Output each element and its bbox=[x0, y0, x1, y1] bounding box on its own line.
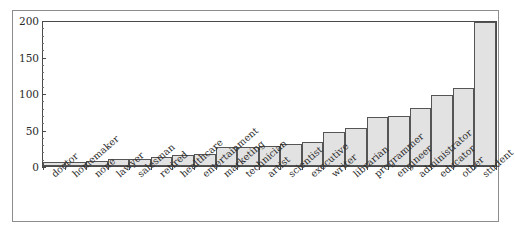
y-axis-tick-mark bbox=[42, 131, 46, 132]
bar bbox=[172, 155, 194, 166]
bar bbox=[86, 161, 108, 166]
bar-series bbox=[43, 22, 496, 166]
bar bbox=[302, 142, 324, 166]
y-axis-minor-tick bbox=[42, 145, 44, 146]
x-axis-tick-mark bbox=[280, 167, 281, 170]
y-axis-minor-tick bbox=[42, 72, 44, 73]
bar bbox=[194, 154, 216, 166]
y-axis-minor-tick bbox=[42, 123, 44, 124]
bar bbox=[280, 144, 302, 166]
x-axis-tick-mark bbox=[453, 167, 454, 170]
x-axis-tick-mark bbox=[259, 167, 260, 170]
y-axis-minor-tick bbox=[42, 101, 44, 102]
y-axis-minor-tick bbox=[42, 160, 44, 161]
x-axis-tick-mark bbox=[43, 167, 44, 170]
x-axis-tick-mark bbox=[216, 167, 217, 170]
x-axis-tick-mark bbox=[302, 167, 303, 170]
bar bbox=[367, 117, 389, 166]
x-axis-tick-mark bbox=[410, 167, 411, 170]
y-axis-minor-tick bbox=[42, 43, 44, 44]
bar bbox=[410, 108, 432, 166]
x-axis-tick-mark bbox=[388, 167, 389, 170]
bar bbox=[108, 159, 130, 166]
y-axis-tick-label: 150 bbox=[19, 52, 39, 63]
y-axis-tick-label: 100 bbox=[19, 89, 39, 100]
bar bbox=[323, 132, 345, 166]
y-axis-tick-label: 50 bbox=[26, 125, 39, 136]
y-axis-minor-tick bbox=[42, 28, 44, 29]
x-axis-tick-mark bbox=[194, 167, 195, 170]
x-axis-tick-mark bbox=[345, 167, 346, 170]
x-axis-tick-mark bbox=[129, 167, 130, 170]
y-axis-tick-label: 200 bbox=[19, 16, 39, 27]
x-axis-tick-mark bbox=[496, 167, 497, 170]
bar bbox=[388, 116, 410, 166]
y-axis-minor-tick bbox=[42, 87, 44, 88]
y-axis-minor-tick bbox=[42, 65, 44, 66]
x-axis-tick-mark bbox=[65, 167, 66, 170]
bar bbox=[65, 162, 87, 166]
x-axis-tick-mark bbox=[474, 167, 475, 170]
y-axis-tick-mark bbox=[42, 94, 46, 95]
y-axis-tick-mark bbox=[42, 21, 46, 22]
x-axis-tick-mark bbox=[172, 167, 173, 170]
y-axis-tick-mark bbox=[42, 58, 46, 59]
x-axis-tick-mark bbox=[237, 167, 238, 170]
bar bbox=[237, 147, 259, 166]
y-axis-minor-tick bbox=[42, 36, 44, 37]
y-axis-minor-tick bbox=[42, 138, 44, 139]
bar bbox=[151, 157, 173, 166]
x-axis-tick-mark bbox=[431, 167, 432, 170]
x-axis-tick-mark bbox=[108, 167, 109, 170]
bar bbox=[129, 159, 151, 166]
x-axis-tick-mark bbox=[86, 167, 87, 170]
bar bbox=[453, 88, 475, 166]
y-axis-minor-tick bbox=[42, 79, 44, 80]
bar bbox=[345, 128, 367, 166]
y-axis-minor-tick bbox=[42, 116, 44, 117]
bar bbox=[43, 162, 65, 166]
bar bbox=[431, 95, 453, 166]
x-axis-tick-mark bbox=[367, 167, 368, 170]
x-axis-tick-mark bbox=[151, 167, 152, 170]
bar bbox=[474, 22, 496, 166]
y-axis-minor-tick bbox=[42, 50, 44, 51]
y-axis-minor-tick bbox=[42, 109, 44, 110]
x-axis-tick-mark bbox=[323, 167, 324, 170]
y-axis: 050100150200 bbox=[12, 21, 39, 167]
bar bbox=[216, 147, 238, 166]
bar bbox=[259, 146, 281, 166]
y-axis-tick-label: 0 bbox=[32, 162, 39, 173]
y-axis-minor-tick bbox=[42, 152, 44, 153]
